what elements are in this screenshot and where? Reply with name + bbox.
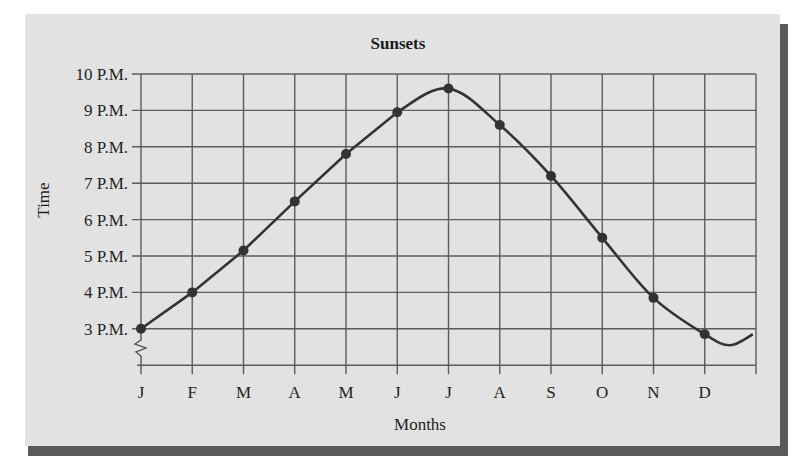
y-axis-label: Time	[34, 182, 53, 217]
y-tick-label: 8 P.M.	[84, 138, 128, 157]
x-tick-label: D	[699, 383, 711, 402]
x-tick-label: N	[647, 383, 659, 402]
x-tick-label: A	[494, 383, 507, 402]
y-tick-label: 4 P.M.	[84, 283, 128, 302]
x-axis-label: Months	[394, 415, 446, 434]
data-point	[444, 84, 454, 94]
sunsets-line-chart: Sunsets 10 P.M.9 P.M.8 P.M.7 P.M.6 P.M.5…	[0, 0, 794, 468]
data-point	[341, 149, 351, 159]
data-point	[136, 324, 146, 334]
x-tick-label: J	[394, 383, 401, 402]
chart-title: Sunsets	[371, 34, 426, 53]
x-tick-label: A	[289, 383, 302, 402]
x-tick-label: J	[445, 383, 452, 402]
y-tick-label: 5 P.M.	[84, 247, 128, 266]
data-point	[495, 120, 505, 130]
y-tick-label: 6 P.M.	[84, 211, 128, 230]
y-tick-label: 7 P.M.	[84, 174, 128, 193]
data-point	[700, 329, 710, 339]
y-tick-label: 10 P.M.	[76, 65, 128, 84]
y-tick-label: 9 P.M.	[84, 101, 128, 120]
data-point	[239, 246, 249, 256]
data-point	[597, 233, 607, 243]
x-tick-label: M	[236, 383, 251, 402]
grid-lines	[132, 74, 756, 374]
data-point	[392, 107, 402, 117]
data-point	[649, 293, 659, 303]
x-tick-label: F	[188, 383, 197, 402]
x-tick-label: J	[138, 383, 145, 402]
x-tick-label: M	[338, 383, 353, 402]
x-tick-label: O	[596, 383, 608, 402]
y-tick-label: 3 P.M.	[84, 320, 128, 339]
data-point	[187, 287, 197, 297]
sunset-curve	[141, 88, 753, 345]
x-tick-label: S	[546, 383, 555, 402]
data-point	[546, 171, 556, 181]
x-axis-tick-labels: JFMAMJJASOND	[138, 383, 711, 402]
data-points	[136, 84, 710, 340]
data-point	[290, 196, 300, 206]
y-axis-tick-labels: 10 P.M.9 P.M.8 P.M.7 P.M.6 P.M.5 P.M.4 P…	[76, 65, 128, 339]
axis-break-icon	[135, 329, 146, 365]
